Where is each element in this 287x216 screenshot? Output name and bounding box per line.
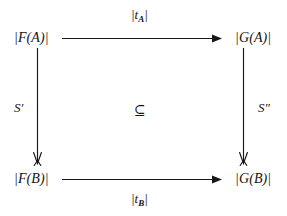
edge-label-top: |tA| [131, 8, 148, 24]
edge-label-bottom: |tB| [131, 192, 148, 208]
edge-label-right: S″ [258, 101, 270, 114]
node-top-left: |F(A)| [14, 31, 49, 45]
edge-label-top-suffix: | [144, 7, 148, 22]
arrow-top-horizontal [62, 35, 222, 43]
arrow-left-vertical [34, 48, 42, 166]
arrow-right-vertical [240, 48, 248, 166]
commutative-diagram: |F(A)| |G(A)| |F(B)| |G(B)| |tA| |tB| S′… [0, 0, 287, 216]
node-bottom-left: |F(B)| [14, 172, 49, 186]
edge-label-bottom-suffix: | [144, 191, 148, 206]
edge-label-left: S′ [14, 101, 23, 114]
arrow-bottom-horizontal [62, 176, 222, 184]
node-bottom-right: |G(B)| [235, 172, 271, 186]
node-top-right: |G(A)| [235, 31, 271, 45]
subset-or-equal-icon: ⊆ [134, 104, 146, 118]
